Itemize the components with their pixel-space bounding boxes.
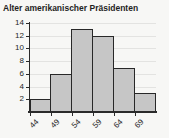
bar	[134, 93, 156, 112]
histogram-chart: Alter amerikanischer Präsidenten 2468101…	[0, 0, 169, 138]
y-tick	[26, 87, 30, 88]
x-tick	[51, 113, 52, 116]
y-tick-label: 14	[6, 19, 24, 27]
x-tick-label: 64	[113, 118, 125, 130]
x-tick	[30, 113, 31, 116]
y-tick-label: 6	[6, 70, 24, 78]
x-tick-label: 54	[71, 118, 83, 130]
y-tick	[26, 48, 30, 49]
y-tick	[26, 99, 30, 100]
x-tick	[114, 113, 115, 116]
y-tick-label: 12	[6, 32, 24, 40]
y-tick-label: 10	[6, 44, 24, 52]
y-tick-label: 4	[6, 83, 24, 91]
x-tick-label: 59	[92, 118, 104, 130]
y-tick	[26, 61, 30, 62]
bar	[30, 99, 51, 112]
x-tick	[93, 113, 94, 116]
x-tick-label: 49	[50, 118, 62, 130]
bar	[50, 74, 72, 112]
bar	[92, 36, 114, 112]
gridline	[30, 23, 156, 24]
x-tick	[72, 113, 73, 116]
plot-area: 2468101214444954596469	[0, 0, 169, 138]
y-tick-label: 8	[6, 57, 24, 65]
x-tick-label: 69	[134, 118, 146, 130]
bar	[71, 29, 93, 112]
bar	[113, 68, 135, 113]
x-tick	[135, 113, 136, 116]
y-tick	[26, 23, 30, 24]
y-tick	[26, 74, 30, 75]
y-tick-label: 2	[6, 95, 24, 103]
y-tick	[26, 36, 30, 37]
x-tick-label: 44	[29, 118, 41, 130]
